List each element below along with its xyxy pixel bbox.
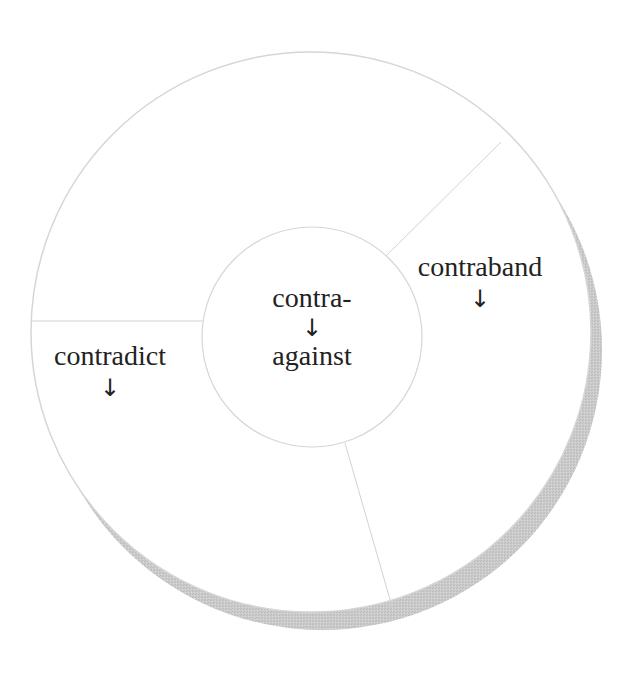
segment-word: contradict: [30, 342, 190, 370]
root-meaning: against: [252, 342, 372, 370]
down-arrow-icon: ↓: [30, 376, 190, 400]
down-arrow-icon: ↓: [400, 287, 560, 311]
root-prefix: contra-: [252, 284, 372, 312]
root-word-wheel: contra- ↓ against contraband ↓ contradic…: [0, 0, 623, 674]
segment-word: contraband: [400, 253, 560, 281]
segment-contraband: contraband ↓: [400, 253, 560, 311]
down-arrow-icon: ↓: [252, 316, 372, 340]
segment-contradict: contradict ↓: [30, 342, 190, 400]
center-hub-label: contra- ↓ against: [252, 284, 372, 370]
